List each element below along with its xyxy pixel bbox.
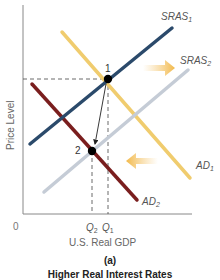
- ad1-label: AD1: [196, 161, 214, 172]
- q2-tick-sub: 2: [94, 227, 98, 234]
- ad2-label: AD2: [142, 197, 160, 208]
- sras2-label-sub: 2: [207, 60, 211, 67]
- movement-arrow-icon: [95, 84, 106, 144]
- equilibrium-point-1: [104, 75, 112, 83]
- sras2-label: SRAS2: [180, 56, 211, 67]
- q2-tick-text: Q: [86, 222, 94, 233]
- ad1-label-sub: 1: [210, 165, 214, 172]
- q1-tick-label: Q1: [102, 223, 114, 234]
- ad-shift-left-arrow-icon: [126, 153, 158, 169]
- panel-label: (a): [0, 256, 220, 266]
- q2-tick-label: Q2: [86, 223, 98, 234]
- ad2-label-text: AD: [142, 196, 156, 207]
- sras2-curve: [44, 70, 188, 192]
- sras-shift-right-arrow-icon: [143, 60, 175, 76]
- y-axis-label: Price Level: [6, 101, 16, 150]
- diagram-caption: Higher Real Interest Rates: [0, 270, 220, 280]
- q1-tick-sub: 1: [110, 227, 114, 234]
- ad1-label-text: AD: [196, 160, 210, 171]
- sras1-label-sub: 1: [188, 16, 192, 23]
- x-axis-label: U.S. Real GDP: [69, 238, 136, 248]
- sras2-label-text: SRAS: [180, 55, 207, 66]
- ad2-label-sub: 2: [156, 201, 160, 208]
- q1-tick-text: Q: [102, 222, 110, 233]
- sras1-curve: [30, 28, 172, 144]
- origin-label: 0: [13, 222, 19, 232]
- equilibrium-point-2: [88, 147, 96, 155]
- point-2-label: 2: [75, 146, 81, 156]
- sras1-label: SRAS1: [161, 12, 192, 23]
- ad1-curve: [62, 32, 190, 178]
- sras1-label-text: SRAS: [161, 11, 188, 22]
- point-1-label: 1: [105, 64, 111, 74]
